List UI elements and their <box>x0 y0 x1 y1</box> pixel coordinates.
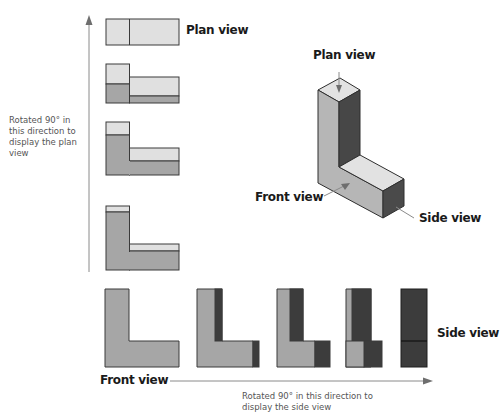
plan-view-label-iso: Plan view <box>313 48 375 62</box>
orthographic-projection-diagram <box>0 0 500 420</box>
front-view-label-bottom: Front view <box>100 373 168 387</box>
front-view-shape <box>105 289 179 367</box>
horizontal-rotation-arrow <box>170 378 433 385</box>
vertical-rotation-arrow <box>86 15 93 272</box>
plan-rotation-step-3 <box>106 122 179 175</box>
rotate-plan-note: Rotated 90° in this direction to display… <box>9 115 79 159</box>
plan-view-label-top: Plan view <box>186 23 248 37</box>
iso-side-view-pointer <box>396 207 414 218</box>
side-view-shape <box>401 289 427 367</box>
plan-rotation-step-4 <box>106 206 179 270</box>
side-view-label-bottom: Side view <box>437 326 499 340</box>
side-rotation-step-4 <box>346 289 382 367</box>
side-rotation-step-2 <box>197 289 259 367</box>
isometric-l-block <box>318 78 404 218</box>
side-view-label-iso: Side view <box>419 211 481 225</box>
plan-rotation-step-2 <box>106 64 179 103</box>
plan-view-shape <box>106 19 179 45</box>
side-rotation-step-3 <box>277 289 330 367</box>
front-view-label-iso: Front view <box>255 190 323 204</box>
rotate-side-note: Rotated 90° in this direction to display… <box>242 391 392 413</box>
iso-column-side-face <box>339 90 360 167</box>
